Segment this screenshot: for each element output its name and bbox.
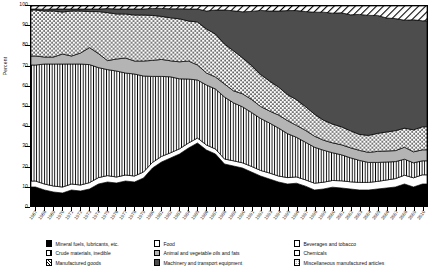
x-tick-label: 1996	[291, 210, 301, 221]
x-tick-label: 1993	[264, 210, 274, 221]
x-tick-label: 1967	[29, 210, 39, 221]
legend-item[interactable]: Machinery and transport equipment	[154, 259, 294, 266]
x-tick-label: 1995	[282, 210, 292, 221]
legend-swatch-icon	[46, 259, 52, 265]
legend-item-label: Crude materials, inedible	[55, 250, 110, 256]
plot-area	[30, 5, 428, 207]
x-tick-label: 2010	[418, 210, 428, 221]
legend-item[interactable]: Animal and vegetable oils and fats	[154, 250, 294, 257]
chart-legend: Mineral fuels, lubricants, etc.Crude mat…	[46, 240, 432, 274]
x-tick-label: 1975	[101, 210, 111, 221]
x-tick-label: 1989	[228, 210, 238, 221]
legend-swatch-icon	[294, 250, 300, 256]
x-tick-label: 1997	[300, 210, 310, 221]
x-tick-label: 1990	[237, 210, 247, 221]
chart-page: Percent 0102030405060708090100	[0, 0, 432, 276]
legend-item[interactable]: Crude materials, inedible	[46, 250, 154, 257]
y-tick-mark	[25, 45, 30, 46]
legend-item[interactable]: Chemicals	[294, 250, 432, 257]
y-tick-mark	[25, 146, 30, 147]
legend-swatch-icon	[154, 250, 160, 256]
x-tick-label: 1988	[219, 210, 229, 221]
legend-item-label: Chemicals	[303, 250, 326, 256]
x-tick-label: 1969	[47, 210, 57, 221]
y-tick-mark	[25, 86, 30, 87]
x-tick-label: 1994	[273, 210, 283, 221]
x-tick-label: 1992	[255, 210, 265, 221]
area-series-svg	[31, 6, 427, 206]
x-tick-label: 1968	[38, 210, 48, 221]
legend-item[interactable]: Miscellaneous manufactured articles	[294, 259, 432, 266]
legend-swatch-icon	[294, 240, 300, 246]
x-tick-label: 1991	[246, 210, 256, 221]
y-tick-mark	[25, 167, 30, 168]
legend-swatch-icon	[154, 259, 160, 265]
legend-column-2: FoodAnimal and vegetable oils and fatsMa…	[154, 240, 294, 274]
y-tick-mark	[25, 5, 30, 6]
legend-item[interactable]: Food	[154, 240, 294, 247]
stacked-area-chart: Percent 0102030405060708090100	[0, 0, 432, 232]
legend-item-label: Miscellaneous manufactured articles	[303, 260, 384, 266]
legend-column-3: Beverages and tobaccoChemicalsMiscellane…	[294, 240, 432, 274]
y-tick-mark	[25, 126, 30, 127]
x-axis-tick-labels: 1967196819691970197119721973197419751976…	[30, 210, 428, 234]
legend-item[interactable]: Mineral fuels, lubricants, etc.	[46, 240, 154, 247]
legend-item-label: Beverages and tobacco	[303, 241, 356, 247]
legend-column-1: Mineral fuels, lubricants, etc.Crude mat…	[46, 240, 154, 274]
legend-item-label: Manufactured goods	[55, 260, 101, 266]
y-tick-mark	[25, 66, 30, 67]
legend-item-label: Machinery and transport equipment	[163, 260, 242, 266]
y-tick-mark	[25, 207, 30, 208]
x-tick-label: 1974	[92, 210, 102, 221]
legend-item[interactable]: Beverages and tobacco	[294, 240, 432, 247]
legend-swatch-icon	[46, 240, 52, 246]
x-tick-label: 1972	[74, 210, 84, 221]
y-tick-mark	[25, 106, 30, 107]
legend-item-label: Mineral fuels, lubricants, etc.	[55, 241, 118, 247]
legend-swatch-icon	[154, 240, 160, 246]
y-tick-mark	[25, 25, 30, 26]
x-tick-label: 1971	[65, 210, 75, 221]
legend-swatch-icon	[46, 250, 52, 256]
legend-swatch-icon	[294, 259, 300, 265]
x-tick-label: 1973	[83, 210, 93, 221]
legend-item[interactable]: Manufactured goods	[46, 259, 154, 266]
legend-item-label: Animal and vegetable oils and fats	[163, 250, 239, 256]
x-tick-label: 1970	[56, 210, 66, 221]
legend-item-label: Food	[163, 241, 174, 247]
y-tick-mark	[25, 187, 30, 188]
